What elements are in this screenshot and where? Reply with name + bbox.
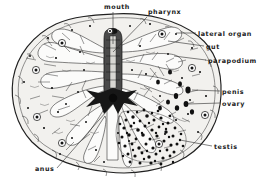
label-testis: testis	[214, 143, 238, 151]
label-mouth: mouth	[104, 3, 130, 11]
label-ovary: ovary	[222, 100, 245, 108]
worm-anatomy-svg: mouth pharynx lateral organ gut parapodi…	[0, 0, 276, 180]
label-penis: penis	[222, 88, 244, 96]
label-gut: gut	[206, 43, 220, 51]
label-anus: anus	[35, 165, 54, 173]
label-lateral-organ: lateral organ	[198, 30, 252, 38]
anatomical-figure: mouth pharynx lateral organ gut parapodi…	[0, 0, 276, 180]
label-pharynx: pharynx	[148, 8, 182, 16]
label-parapodium: parapodium	[208, 57, 257, 65]
